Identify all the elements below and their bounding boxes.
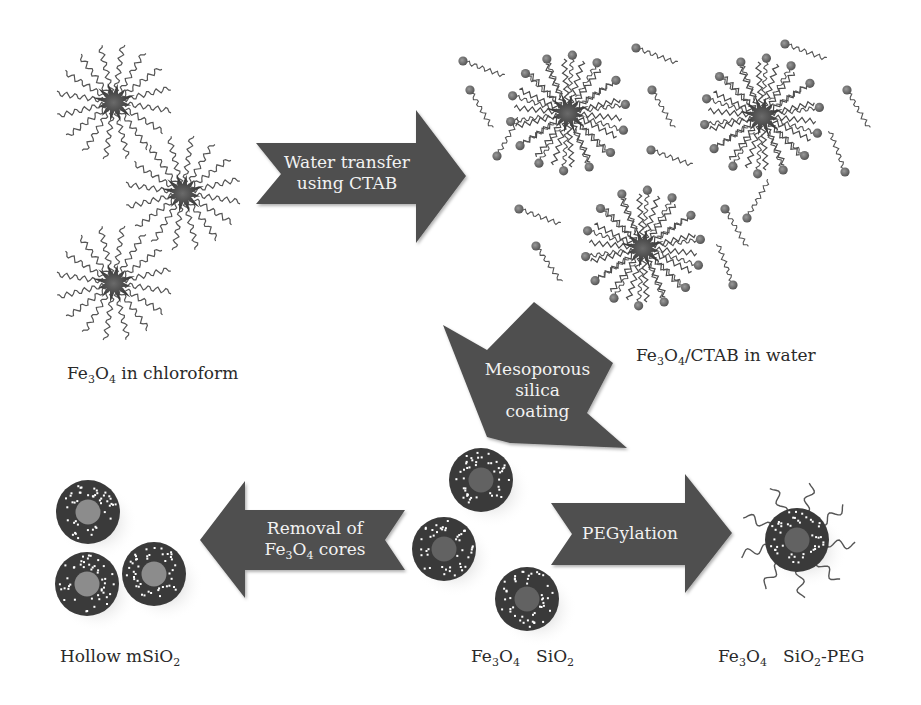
pore-dot: [77, 524, 79, 526]
pore-dot: [773, 538, 775, 540]
pore-dot: [467, 556, 469, 558]
ctab-head-icon: [813, 129, 822, 138]
oleic-acid-ligand-icon: [168, 136, 182, 183]
pore-dot: [73, 567, 75, 569]
core-icon: [432, 537, 457, 562]
ctab-head-icon: [643, 186, 652, 195]
pore-dot: [111, 573, 113, 575]
pore-dot: [173, 586, 175, 588]
pore-dot: [166, 585, 168, 587]
core-icon: [469, 468, 494, 493]
pore-dot: [449, 570, 451, 572]
fe3o4-nanocrystal-icon: [92, 83, 134, 122]
pore-dot: [780, 532, 782, 534]
ctab-head-icon: [568, 51, 577, 60]
pore-dot: [159, 595, 161, 597]
pore-dot: [82, 556, 84, 558]
ctab-tail-icon: [519, 209, 561, 225]
pore-dot: [93, 606, 95, 608]
pore-dot: [109, 593, 111, 595]
pore-dot: [541, 594, 543, 596]
pore-dot: [97, 572, 99, 574]
pore-dot: [788, 511, 790, 513]
ctab-head-icon: [728, 280, 737, 289]
pore-dot: [108, 495, 110, 497]
oleic-acid-ligand-icon: [122, 69, 162, 97]
pore-dot: [92, 567, 94, 569]
ctab-head-icon: [596, 204, 605, 213]
pore-dot: [810, 519, 812, 521]
pore-dot: [543, 605, 545, 607]
pore-dot: [504, 598, 506, 600]
ctab-tail-icon: [636, 48, 678, 64]
pore-dot: [161, 548, 163, 550]
ctab-tail-icon: [651, 150, 693, 166]
pore-dot: [436, 531, 438, 533]
oleic-acid-ligand-icon: [114, 45, 125, 92]
oleic-acid-ligand-icon: [122, 250, 162, 278]
pore-dot: [64, 564, 66, 566]
pore-dot: [532, 621, 534, 623]
ctab-head-icon: [715, 72, 724, 81]
pore-dot: [496, 495, 498, 497]
pore-dot: [791, 553, 793, 555]
pore-dot: [67, 519, 69, 521]
pore-dot: [77, 537, 79, 539]
pore-dot: [65, 497, 67, 499]
ctab-head-icon: [700, 120, 709, 129]
pore-dot: [103, 592, 105, 594]
pore-dot: [80, 564, 82, 566]
pore-dot: [449, 566, 451, 568]
pore-dot: [459, 563, 461, 565]
pore-dot: [104, 578, 106, 580]
pore-dot: [91, 598, 93, 600]
pore-dot: [442, 526, 444, 528]
pore-dot: [103, 565, 105, 567]
pore-dot: [459, 539, 461, 541]
pore-dot: [137, 566, 139, 568]
pore-dot: [527, 578, 529, 580]
oleic-acid-ligand-icon: [57, 283, 104, 297]
pore-dot: [490, 462, 492, 464]
ctab-head-icon: [805, 79, 814, 88]
oleic-acid-ligand-icon: [124, 102, 171, 113]
oleic-acid-ligand-icon: [66, 288, 106, 316]
pore-dot: [523, 622, 525, 624]
pore-dot: [509, 611, 511, 613]
pore-dot: [445, 569, 447, 571]
pore-dot: [88, 564, 90, 566]
pore-dot: [787, 523, 789, 525]
pore-dot: [420, 548, 422, 550]
pore-dot: [501, 470, 503, 472]
pore-dot: [458, 534, 460, 536]
pore-dot: [814, 545, 816, 547]
pore-dot: [80, 560, 82, 562]
oleic-acid-ligand-icon: [57, 272, 104, 283]
oleic-acid-ligand-icon: [188, 201, 216, 241]
pore-dot: [499, 471, 501, 473]
pore-dot: [509, 597, 511, 599]
pore-dot: [803, 553, 805, 555]
pore-dot: [498, 467, 500, 469]
oleic-acid-ligand-icon: [57, 102, 104, 116]
pore-dot: [441, 566, 443, 568]
pore-dot: [98, 598, 100, 600]
pore-dot: [445, 527, 447, 529]
core-icon: [785, 528, 810, 553]
pore-dot: [75, 520, 77, 522]
pore-dot: [101, 590, 103, 592]
ctab-head-icon: [842, 85, 851, 94]
ctab-head-icon: [681, 283, 690, 292]
pore-dot: [59, 583, 61, 585]
pore-dot: [818, 525, 820, 527]
pore-dot: [443, 573, 445, 575]
pore-dot: [135, 555, 137, 557]
pore-dot: [67, 588, 69, 590]
pore-dot: [466, 495, 468, 497]
ctab-tail-icon: [780, 106, 820, 115]
pore-dot: [514, 578, 516, 580]
oleic-acid-ligand-icon: [103, 112, 114, 159]
pore-dot: [504, 581, 506, 583]
pore-dot: [429, 567, 431, 569]
pore-dot: [66, 577, 68, 579]
